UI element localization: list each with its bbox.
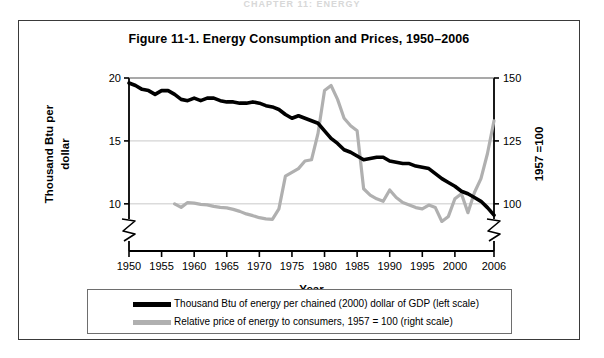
x-tick-1995: 1995	[410, 260, 434, 272]
legend-label-btu: Thousand Btu of energy per chained (2000…	[174, 298, 479, 310]
x-tick-1960: 1960	[182, 260, 206, 272]
y-right-tick-150: 150	[503, 72, 521, 84]
x-tick-1955: 1955	[149, 260, 173, 272]
x-tick-1980: 1980	[312, 260, 336, 272]
legend-item-btu: Thousand Btu of energy per chained (2000…	[133, 298, 479, 310]
x-tick-2000: 2000	[443, 260, 467, 272]
x-tick-1965: 1965	[215, 260, 239, 272]
axis-break-icon	[487, 219, 500, 241]
x-tick-1970: 1970	[247, 260, 271, 272]
y-axis-right-label: 1957 =100	[533, 127, 545, 182]
axis-tick-labels: 1015201001251501950195519601965197019751…	[109, 72, 522, 272]
legend-label-price: Relative price of energy to consumers, 1…	[174, 316, 453, 328]
axis-lines	[129, 78, 494, 251]
axis-ticks	[124, 78, 499, 257]
legend-item-price: Relative price of energy to consumers, 1…	[133, 316, 453, 328]
y-right-tick-125: 125	[503, 135, 521, 147]
series-line-btu-per-dollar	[129, 83, 494, 215]
y-left-tick-15: 15	[109, 135, 121, 147]
series-line-relative-price	[175, 86, 494, 222]
axis-break-icon	[122, 219, 135, 241]
data-series-layer	[129, 83, 494, 221]
gridlines	[129, 141, 494, 204]
x-tick-1985: 1985	[345, 260, 369, 272]
page-running-head: CHAPTER 11: ENERGY	[0, 0, 604, 8]
y-axis-left-label-line2: dollar	[59, 138, 71, 170]
y-left-tick-20: 20	[109, 72, 121, 84]
x-tick-1950: 1950	[117, 260, 141, 272]
legend-swatch-gray-line-icon	[133, 320, 171, 325]
x-tick-2006: 2006	[482, 260, 506, 272]
x-tick-1990: 1990	[377, 260, 401, 272]
figure-frame: Figure 11-1. Energy Consumption and Pric…	[18, 20, 580, 340]
legend-swatch-black-line-icon	[133, 302, 171, 307]
y-axis-left-label: Thousand Btu per	[43, 104, 55, 203]
x-tick-1975: 1975	[280, 260, 304, 272]
y-left-tick-10: 10	[109, 198, 121, 210]
chart-legend: Thousand Btu of energy per chained (2000…	[87, 289, 512, 334]
y-right-tick-100: 100	[503, 198, 521, 210]
